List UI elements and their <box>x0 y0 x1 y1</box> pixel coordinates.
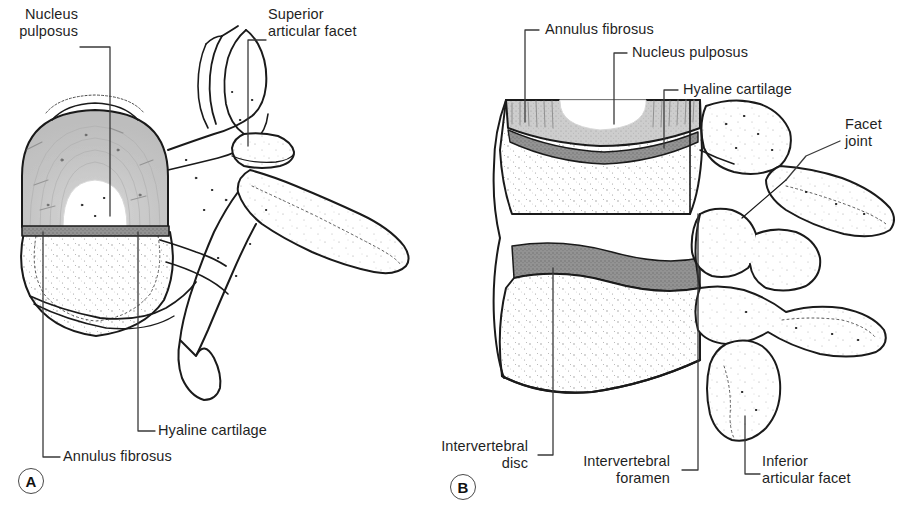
label-b-annulus-fibrosus: Annulus fibrosus <box>545 21 715 38</box>
label-b-inferior-articular-facet: Inferior articular facet <box>762 453 897 487</box>
panel-letter-b: B <box>450 474 476 500</box>
label-a-superior-articular-facet: Superior articular facet <box>268 6 418 40</box>
anatomy-figure: Nucleus pulposus Superior articular face… <box>0 0 905 513</box>
label-a-hyaline-cartilage: Hyaline cartilage <box>158 422 318 439</box>
label-b-nucleus-pulposus: Nucleus pulposus <box>632 44 807 61</box>
label-b-intervertebral-disc: Intervertebral disc <box>424 438 528 472</box>
panel-letter-a: A <box>18 468 44 494</box>
anatomy-illustration <box>0 0 905 513</box>
label-b-facet-joint: Facet joint <box>845 116 905 150</box>
label-b-hyaline-cartilage: Hyaline cartilage <box>683 81 858 98</box>
a-vertebral-body <box>21 232 173 336</box>
label-b-intervertebral-foramen: Intervertebral foramen <box>566 453 670 487</box>
a-hyaline-cartilage-band <box>22 226 169 236</box>
label-a-nucleus-pulposus: Nucleus pulposus <box>0 6 78 40</box>
label-a-annulus-fibrosus: Annulus fibrosus <box>63 448 233 465</box>
b-lower-posterior-elements <box>695 286 885 440</box>
b-lower-vertebral-body <box>500 274 700 393</box>
